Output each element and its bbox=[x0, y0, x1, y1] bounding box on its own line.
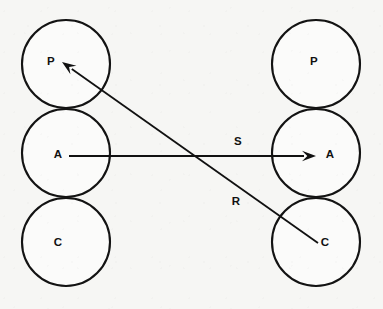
node-label-right-p: P bbox=[310, 55, 318, 67]
node-left-a[interactable]: A bbox=[22, 109, 110, 197]
edge-label-r: R bbox=[232, 195, 241, 207]
node-label-right-a: A bbox=[326, 148, 335, 160]
diagram-canvas: P A C P A C bbox=[0, 0, 383, 309]
node-label-left-c: C bbox=[54, 236, 63, 248]
circle-left-a[interactable] bbox=[22, 109, 110, 197]
node-right-p[interactable]: P bbox=[272, 20, 360, 108]
diagram-svg: P A C P A C bbox=[0, 0, 383, 309]
node-label-right-c: C bbox=[321, 236, 330, 248]
left-column: P A C bbox=[22, 20, 110, 286]
right-column: P A C bbox=[272, 20, 360, 286]
node-left-c[interactable]: C bbox=[22, 198, 110, 286]
circle-right-a[interactable] bbox=[272, 109, 360, 197]
edge-label-s: S bbox=[234, 135, 242, 147]
node-label-left-p: P bbox=[47, 55, 55, 67]
node-right-a[interactable]: A bbox=[272, 109, 360, 197]
circle-left-c[interactable] bbox=[22, 198, 110, 286]
node-label-left-a: A bbox=[54, 148, 63, 160]
